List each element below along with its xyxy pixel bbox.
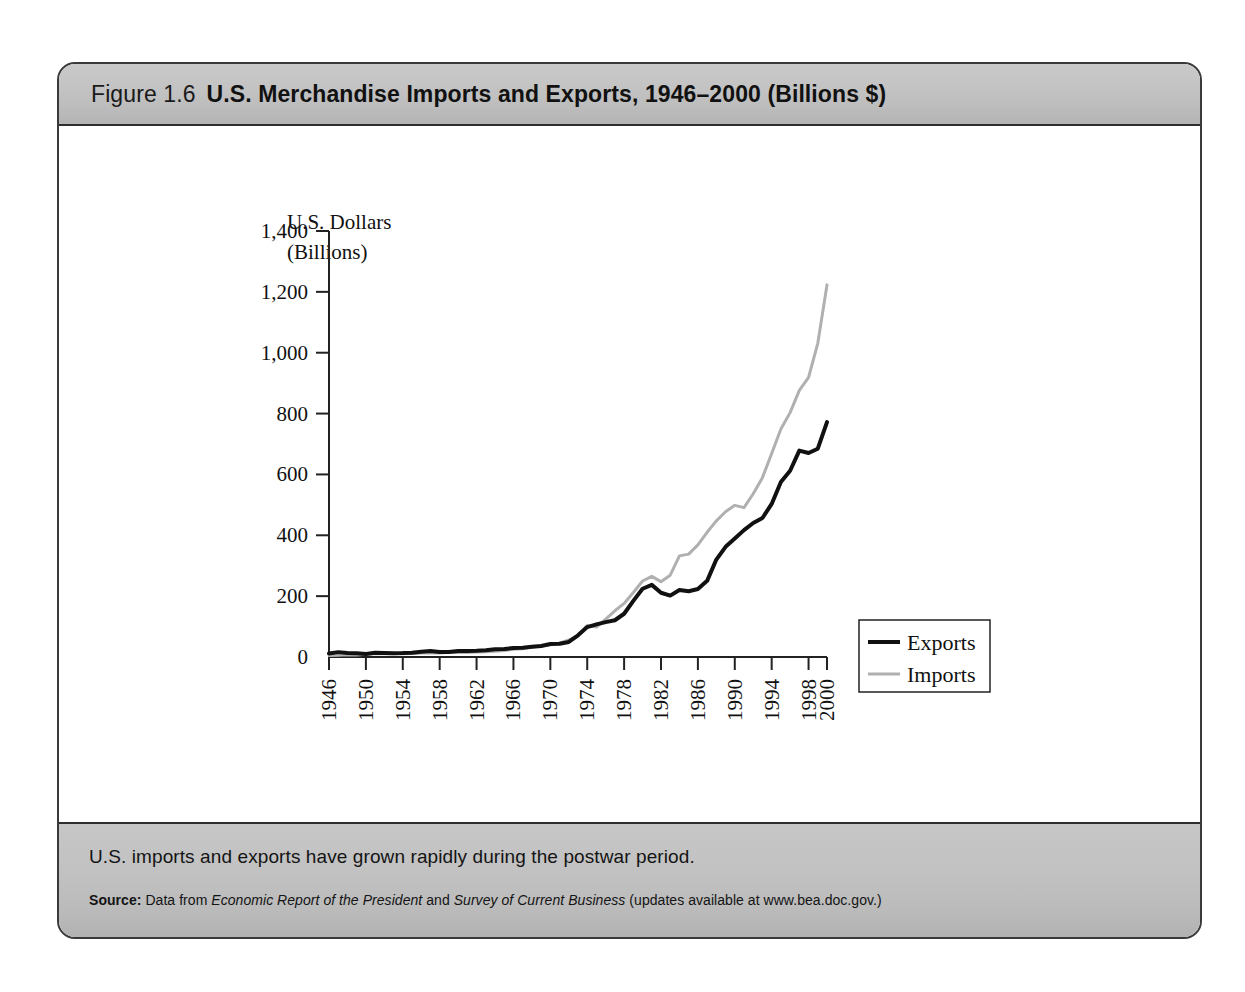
- x-tick-label: 1994: [760, 679, 784, 722]
- figure-container: Figure 1.6 U.S. Merchandise Imports and …: [57, 62, 1202, 939]
- series-line-imports: [329, 285, 827, 656]
- y-tick-label: 800: [277, 402, 309, 426]
- figure-footer: U.S. imports and exports have grown rapi…: [59, 822, 1200, 937]
- x-tick-label: 1974: [575, 679, 599, 722]
- x-tick-label: 1990: [723, 679, 747, 721]
- chart-plot-area: U.S. Dollars (Billions) 02004006008001,0…: [59, 126, 1200, 826]
- chart-legend[interactable]: ExportsImports: [859, 620, 990, 692]
- y-tick-label: 0: [298, 645, 309, 669]
- y-tick-label: 200: [277, 584, 309, 608]
- figure-title: U.S. Merchandise Imports and Exports, 19…: [207, 81, 887, 108]
- source-label: Source:: [89, 892, 141, 908]
- legend-label-imports: Imports: [907, 662, 975, 687]
- figure-caption: U.S. imports and exports have grown rapi…: [89, 846, 1170, 868]
- figure-source: Source: Data from Economic Report of the…: [89, 892, 1170, 908]
- figure-number: Figure 1.6: [91, 81, 196, 108]
- source-work-2: Survey of Current Business: [454, 892, 626, 908]
- series-line-exports: [329, 422, 827, 654]
- x-tick-label: 1986: [686, 679, 710, 721]
- x-tick-label: 1978: [612, 679, 636, 721]
- y-tick-label: 1,200: [261, 280, 308, 304]
- source-suffix: (updates available at www.bea.doc.gov.): [629, 892, 881, 908]
- x-tick-label: 1954: [391, 679, 415, 722]
- x-tick-label: 1966: [501, 679, 525, 721]
- figure-header: Figure 1.6 U.S. Merchandise Imports and …: [59, 64, 1200, 126]
- legend-label-exports: Exports: [907, 630, 975, 655]
- y-tick-label: 1,000: [261, 341, 308, 365]
- y-tick-label: 1,400: [261, 219, 308, 243]
- x-tick-label: 1970: [538, 679, 562, 721]
- line-chart: U.S. Dollars (Billions) 02004006008001,0…: [59, 126, 1200, 826]
- y-tick-label: 600: [277, 462, 309, 486]
- y-axis-title-line2: (Billions): [287, 240, 368, 264]
- x-tick-label: 1958: [428, 679, 452, 721]
- y-axis-ticks: 02004006008001,0001,2001,400: [261, 219, 329, 669]
- source-work-1: Economic Report of the President: [211, 892, 422, 908]
- x-tick-label: 1950: [354, 679, 378, 721]
- x-axis-ticks: 1946195019541958196219661970197419781982…: [317, 657, 839, 721]
- x-tick-label: 1962: [465, 679, 489, 721]
- chart-series-group: [329, 285, 827, 656]
- source-conjunction: and: [426, 892, 450, 908]
- source-prefix: Data from: [145, 892, 207, 908]
- y-tick-label: 400: [277, 523, 309, 547]
- x-tick-label: 1982: [649, 679, 673, 721]
- x-tick-label: 2000: [815, 679, 839, 721]
- x-tick-label: 1946: [317, 679, 341, 721]
